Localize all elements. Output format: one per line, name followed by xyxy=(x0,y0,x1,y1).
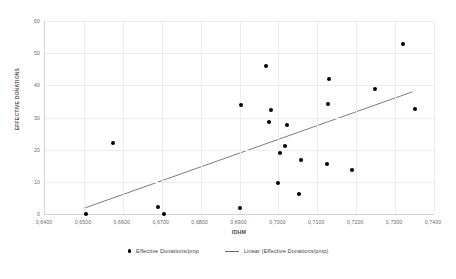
x-axis-tick-label: 0,7000 xyxy=(269,219,285,225)
data-point[interactable] xyxy=(162,212,166,216)
y-axis-tick-labels: 0102030405060 xyxy=(0,21,40,215)
gridline-vertical xyxy=(84,21,85,214)
x-axis-tick-label: 0,7400 xyxy=(425,219,441,225)
y-axis-tick-label: 0 xyxy=(37,211,40,217)
x-axis-tick-label: 0,6500 xyxy=(75,219,91,225)
y-axis-tick-label: 20 xyxy=(34,147,40,153)
data-point[interactable] xyxy=(283,144,287,148)
legend-label: Effective Donations/pmp xyxy=(136,248,199,254)
gridline-vertical xyxy=(434,21,435,214)
legend-label: Linear (Effective Donations/pmp) xyxy=(244,248,329,254)
data-point[interactable] xyxy=(326,102,330,106)
y-axis-tick-label: 50 xyxy=(34,50,40,56)
data-point[interactable] xyxy=(276,181,280,185)
data-point[interactable] xyxy=(156,205,160,209)
data-point[interactable] xyxy=(111,141,115,145)
gridline-vertical xyxy=(240,21,241,214)
data-point[interactable] xyxy=(350,168,354,172)
gridline-vertical xyxy=(278,21,279,214)
x-axis-tick-label: 0,6800 xyxy=(191,219,207,225)
legend-dot-icon xyxy=(128,249,132,253)
y-axis-tick-label: 30 xyxy=(34,115,40,121)
y-axis-title: EFFECTIVE DONATIONS xyxy=(14,54,20,144)
data-point[interactable] xyxy=(285,123,289,127)
legend-line-icon xyxy=(225,251,239,252)
chart-legend: Effective Donations/pmpLinear (Effective… xyxy=(0,248,456,254)
x-axis-tick-label: 0,7100 xyxy=(308,219,324,225)
data-point[interactable] xyxy=(239,103,243,107)
x-axis-title: IDHM xyxy=(44,229,434,235)
legend-entry[interactable]: Linear (Effective Donations/pmp) xyxy=(225,248,329,254)
data-point[interactable] xyxy=(413,107,417,111)
gridline-vertical xyxy=(356,21,357,214)
data-point[interactable] xyxy=(325,162,329,166)
x-axis-tick-label: 0,6700 xyxy=(152,219,168,225)
data-point[interactable] xyxy=(269,108,273,112)
data-point[interactable] xyxy=(84,212,88,216)
y-axis-tick-label: 10 xyxy=(34,179,40,185)
data-point[interactable] xyxy=(278,151,282,155)
gridline-vertical xyxy=(201,21,202,214)
x-axis-tick-labels: 0,64000,65000,66000,67000,68000,69000,70… xyxy=(44,219,434,229)
x-axis-tick-label: 0,7300 xyxy=(386,219,402,225)
gridline-vertical xyxy=(395,21,396,214)
plot-area xyxy=(44,21,434,215)
x-axis-tick-label: 0,6600 xyxy=(114,219,130,225)
gridline-vertical xyxy=(123,21,124,214)
scatter-chart: 0102030405060 EFFECTIVE DONATIONS 0,6400… xyxy=(0,0,456,279)
data-point[interactable] xyxy=(238,206,242,210)
x-axis-tick-label: 0,6900 xyxy=(230,219,246,225)
data-point[interactable] xyxy=(327,77,331,81)
x-axis-tick-label: 0,7200 xyxy=(347,219,363,225)
x-axis-tick-label: 0,6400 xyxy=(36,219,52,225)
y-axis-tick-label: 40 xyxy=(34,82,40,88)
gridline-vertical xyxy=(317,21,318,214)
data-point[interactable] xyxy=(373,87,377,91)
data-point[interactable] xyxy=(401,42,405,46)
data-point[interactable] xyxy=(264,64,268,68)
data-point[interactable] xyxy=(297,192,301,196)
data-point[interactable] xyxy=(267,120,271,124)
gridline-vertical xyxy=(162,21,163,214)
legend-entry[interactable]: Effective Donations/pmp xyxy=(128,248,199,254)
y-axis-tick-label: 60 xyxy=(34,18,40,24)
data-point[interactable] xyxy=(299,158,303,162)
